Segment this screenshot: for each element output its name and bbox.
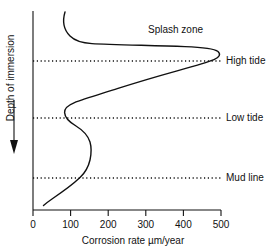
corrosion-depth-chart: 0 100 200 300 400 500 Corrosion rate µm/… — [0, 0, 280, 251]
splash-zone-label: Splash zone — [148, 24, 203, 35]
low-tide-label: Low tide — [226, 112, 264, 123]
x-tick-label-100: 100 — [62, 219, 79, 230]
x-tick-label-200: 200 — [100, 219, 117, 230]
x-axis-ticks — [33, 210, 221, 216]
x-tick-label-500: 500 — [213, 219, 230, 230]
high-tide-label: High tide — [226, 55, 266, 66]
x-tick-label-0: 0 — [30, 219, 36, 230]
depth-direction-arrow-icon — [10, 140, 18, 154]
mud-line-label: Mud line — [226, 172, 264, 183]
corrosion-rate-curve — [44, 12, 220, 206]
x-tick-label-300: 300 — [137, 219, 154, 230]
x-tick-label-400: 400 — [175, 219, 192, 230]
chart-canvas: 0 100 200 300 400 500 Corrosion rate µm/… — [0, 0, 280, 251]
x-axis-title: Corrosion rate µm/year — [82, 235, 185, 246]
